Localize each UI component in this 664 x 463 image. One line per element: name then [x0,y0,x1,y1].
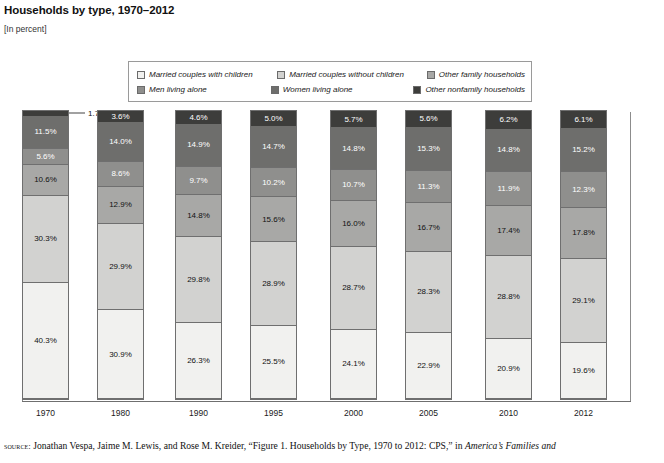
bar-segment-2005-married-couples-with-children[interactable]: 22.9% [406,333,451,399]
segment-value-label: 8.6% [111,169,129,178]
bar-1995[interactable]: 25.5%28.9%15.6%10.2%14.7%5.0% [250,110,297,400]
bar-segment-1970-married-couples-with-children[interactable]: 40.3% [23,283,68,399]
bar-segment-1980-married-couples-without-children[interactable]: 29.9% [98,224,143,310]
segment-value-label: 5.0% [264,114,282,123]
bar-segment-1980-other-family-households[interactable]: 12.9% [98,187,143,224]
bar-segment-2005-married-couples-without-children[interactable]: 28.3% [406,252,451,334]
segment-value-label: 28.7% [342,283,365,292]
legend-swatch-other-family [427,71,435,79]
bar-segment-1990-men-living-alone[interactable]: 9.7% [176,167,221,195]
segment-value-label: 14.0% [109,137,132,146]
legend-item-women-living-alone[interactable]: Women living alone [271,82,414,97]
legend-item-married-without-children[interactable]: Married couples without children [277,67,427,82]
bar-segment-1995-other-nonfamily-households[interactable]: 5.0% [251,111,296,125]
bar-segment-2012-married-couples-without-children[interactable]: 29.1% [561,259,606,343]
segment-value-label: 28.3% [417,287,440,296]
bar-1980[interactable]: 30.9%29.9%12.9%8.6%14.0%3.6% [97,110,144,400]
bar-segment-2010-men-living-alone[interactable]: 11.9% [486,172,531,206]
bar-segment-1995-married-couples-without-children[interactable]: 28.9% [251,242,296,325]
segment-value-label: 28.8% [497,292,520,301]
chart-legend: Married couples with children Married co… [128,61,532,102]
bar-segment-1990-women-living-alone[interactable]: 14.9% [176,124,221,167]
bar-segment-2010-other-nonfamily-households[interactable]: 6.2% [486,111,531,129]
bar-segment-1990-married-couples-with-children[interactable]: 26.3% [176,323,221,399]
legend-item-married-with-children[interactable]: Married couples with children [137,67,277,82]
bar-segment-2010-married-couples-with-children[interactable]: 20.9% [486,339,531,399]
x-tick-label-1970: 1970 [22,408,69,418]
bar-segment-2005-women-living-alone[interactable]: 15.3% [406,127,451,171]
bar-segment-1970-other-nonfamily-households[interactable]: 1.7% [23,111,68,116]
segment-value-label: 10.2% [262,178,285,187]
bar-2005[interactable]: 22.9%28.3%16.7%11.3%15.3%5.6% [405,110,452,400]
segment-value-label: 22.9% [417,361,440,370]
x-tick-label-1980: 1980 [97,408,144,418]
bar-1990[interactable]: 26.3%29.8%14.8%9.7%14.9%4.6% [175,110,222,400]
segment-value-label: 29.9% [109,262,132,271]
bar-segment-1980-men-living-alone[interactable]: 8.6% [98,162,143,187]
bar-segment-2010-other-family-households[interactable]: 17.4% [486,206,531,256]
segment-value-label: 15.2% [572,145,595,154]
bar-segment-2010-women-living-alone[interactable]: 14.8% [486,129,531,172]
legend-label-married-without-children: Married couples without children [289,70,404,79]
bar-segment-2000-other-family-households[interactable]: 16.0% [331,201,376,247]
bar-segment-2000-men-living-alone[interactable]: 10.7% [331,170,376,201]
bar-segment-1970-women-living-alone[interactable]: 11.5% [23,116,68,149]
bar-segment-1995-women-living-alone[interactable]: 14.7% [251,126,296,168]
segment-value-label: 4.6% [189,113,207,122]
bar-segment-1980-married-couples-with-children[interactable]: 30.9% [98,310,143,399]
segment-value-label: 9.7% [189,176,207,185]
bar-segment-1995-men-living-alone[interactable]: 10.2% [251,168,296,197]
bar-segment-1970-men-living-alone[interactable]: 5.6% [23,149,68,165]
x-tick-label-2000: 2000 [330,408,377,418]
segment-value-label: 19.6% [572,366,595,375]
bar-segment-2012-other-nonfamily-households[interactable]: 6.1% [561,111,606,129]
bar-segment-1980-women-living-alone[interactable]: 14.0% [98,122,143,162]
legend-label-women-living-alone: Women living alone [283,85,353,94]
segment-value-label: 11.3% [417,182,439,191]
segment-value-label: 16.7% [417,223,440,232]
segment-value-label: 20.9% [497,364,520,373]
callout-leader-line [69,113,85,114]
bar-2012[interactable]: 19.6%29.1%17.8%12.3%15.2%6.1% [560,110,607,400]
bar-segment-1990-other-nonfamily-households[interactable]: 4.6% [176,111,221,124]
segment-value-label: 16.0% [342,219,365,228]
legend-swatch-married-without-children [277,71,285,79]
bar-segment-2005-men-living-alone[interactable]: 11.3% [406,171,451,204]
legend-item-men-living-alone[interactable]: Men living alone [137,82,271,97]
bar-segment-2000-married-couples-without-children[interactable]: 28.7% [331,247,376,330]
bar-2000[interactable]: 24.1%28.7%16.0%10.7%14.8%5.7% [330,110,377,400]
bar-segment-1980-other-nonfamily-households[interactable]: 3.6% [98,111,143,121]
x-tick-label-2010: 2010 [485,408,532,418]
segment-value-label: 40.3% [34,336,57,345]
bar-segment-2012-men-living-alone[interactable]: 12.3% [561,172,606,207]
legend-row-2: Men living alone Women living alone Othe… [137,82,525,97]
segment-value-label: 15.6% [262,215,285,224]
bar-segment-1990-other-family-households[interactable]: 14.8% [176,195,221,238]
segment-value-label: 12.9% [109,200,132,209]
bar-segment-1990-married-couples-without-children[interactable]: 29.8% [176,237,221,323]
legend-label-married-with-children: Married couples with children [149,70,253,79]
segment-value-label: 12.3% [572,185,595,194]
source-text: Jonathan Vespa, Jaime M. Lewis, and Rose… [31,440,465,451]
legend-swatch-men-living-alone [137,86,145,94]
bar-segment-2000-married-couples-with-children[interactable]: 24.1% [331,330,376,399]
bar-segment-2012-women-living-alone[interactable]: 15.2% [561,128,606,172]
bar-segment-2005-other-family-households[interactable]: 16.7% [406,203,451,251]
bar-segment-2012-married-couples-with-children[interactable]: 19.6% [561,343,606,399]
bar-segment-2012-other-family-households[interactable]: 17.8% [561,208,606,259]
bar-segment-2005-other-nonfamily-households[interactable]: 5.6% [406,111,451,127]
bar-segment-1970-other-family-households[interactable]: 10.6% [23,165,68,196]
legend-item-other-family[interactable]: Other family households [427,67,525,82]
segment-value-label: 10.7% [342,180,365,189]
legend-item-other-nonfamily[interactable]: Other nonfamily households [413,82,525,97]
x-tick-label-1990: 1990 [175,408,222,418]
bar-segment-2010-married-couples-without-children[interactable]: 28.8% [486,256,531,339]
source-note: source: Jonathan Vespa, Jaime M. Lewis, … [4,440,660,452]
bar-segment-2000-women-living-alone[interactable]: 14.8% [331,127,376,170]
bar-segment-2000-other-nonfamily-households[interactable]: 5.7% [331,111,376,127]
bar-segment-1995-other-family-households[interactable]: 15.6% [251,197,296,242]
bar-segment-1970-married-couples-without-children[interactable]: 30.3% [23,196,68,283]
bar-segment-1995-married-couples-with-children[interactable]: 25.5% [251,326,296,399]
bar-1970[interactable]: 40.3%30.3%10.6%5.6%11.5%1.7% [22,110,69,400]
bar-2010[interactable]: 20.9%28.8%17.4%11.9%14.8%6.2% [485,110,532,400]
